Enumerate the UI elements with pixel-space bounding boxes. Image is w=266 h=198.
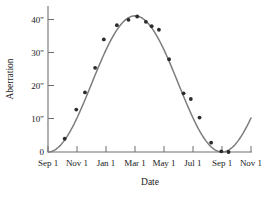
x-tick-label-0: Sep 1 (38, 158, 58, 168)
data-point (167, 57, 171, 61)
x-tick-label-7: Nov 1 (240, 158, 262, 168)
data-point (182, 91, 186, 95)
data-point (115, 23, 119, 27)
data-point (209, 141, 213, 145)
y-tick-label-10: 10″ (31, 114, 44, 124)
y-tick-label-40: 40″ (31, 15, 44, 25)
x-tick-label-2: Jan 1 (97, 158, 116, 168)
x-axis-title: Date (141, 177, 159, 187)
fitted-curve (48, 16, 251, 152)
y-axis-ticks (48, 20, 54, 119)
data-point (74, 108, 78, 112)
x-tick-label-4: May 1 (152, 158, 175, 168)
data-point (189, 97, 193, 101)
x-tick-label-5: Jul 1 (184, 158, 201, 168)
data-point (63, 137, 67, 141)
y-axis-title: Aberration (5, 58, 15, 99)
x-tick-label-3: Mar 1 (124, 158, 146, 168)
data-point (135, 15, 139, 19)
data-point (83, 90, 87, 94)
x-tick-label-1: Nov 1 (66, 158, 88, 168)
data-point (102, 37, 106, 41)
y-tick-label-0: 0 (40, 147, 45, 157)
data-point (227, 150, 231, 154)
data-point (219, 149, 223, 153)
data-point (127, 18, 131, 22)
data-point (150, 24, 154, 28)
data-point (157, 28, 161, 32)
x-tick-label-6: Sep 1 (212, 158, 232, 168)
data-point (198, 116, 202, 120)
chart-canvas: 40″ 30″ 20″ 10″ 0 Sep 1 Nov 1 Jan 1 Mar … (0, 0, 266, 198)
y-tick-label-20: 20″ (31, 81, 44, 91)
data-point (93, 66, 97, 70)
data-point (144, 20, 148, 24)
x-axis-tick-labels: Sep 1 Nov 1 Jan 1 Mar 1 May 1 Jul 1 Sep … (38, 158, 262, 168)
y-axis-tick-labels: 40″ 30″ 20″ 10″ 0 (31, 15, 44, 157)
data-point-group (63, 15, 231, 154)
aberration-chart-figure: 40″ 30″ 20″ 10″ 0 Sep 1 Nov 1 Jan 1 Mar … (0, 0, 266, 198)
y-tick-label-30: 30″ (31, 48, 44, 58)
